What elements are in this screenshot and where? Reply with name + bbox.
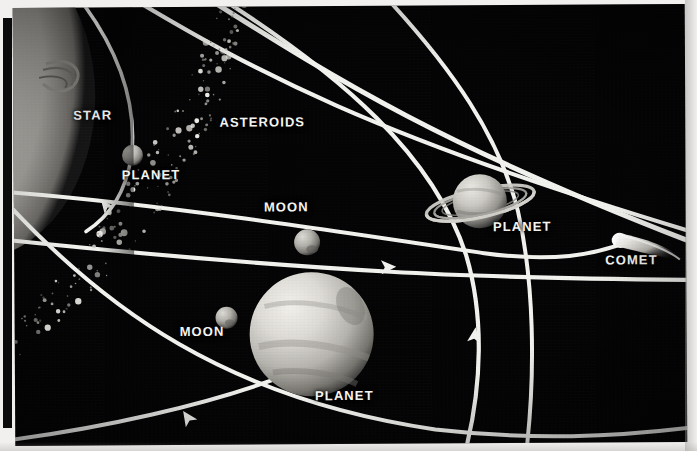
label-comet: COMET	[605, 252, 658, 267]
large-planet-body	[249, 272, 374, 397]
solar-system-scene	[13, 4, 688, 446]
scanned-page: STAR ASTEROIDS PLANET MOON PLANET COMET …	[0, 0, 697, 451]
upper-moon-body	[294, 229, 320, 255]
star-limb-fade	[13, 7, 135, 258]
diagram-canvas: STAR ASTEROIDS PLANET MOON PLANET COMET …	[13, 4, 688, 446]
label-planet-inner: PLANET	[122, 167, 181, 182]
label-moon-upper: MOON	[264, 199, 309, 214]
arrow-bottom-orbit	[177, 407, 197, 427]
label-moon-lower: MOON	[180, 324, 225, 339]
paper-bottom-edge	[0, 442, 697, 451]
page-spine-bar	[3, 18, 12, 428]
paper-right-edge	[685, 0, 697, 451]
label-star: STAR	[73, 107, 112, 122]
label-planet-large: PLANET	[315, 388, 374, 403]
label-planet-ringed: PLANET	[493, 219, 552, 234]
solar-system-diagram-plate: STAR ASTEROIDS PLANET MOON PLANET COMET …	[13, 4, 688, 446]
label-asteroids: ASTEROIDS	[219, 114, 305, 130]
